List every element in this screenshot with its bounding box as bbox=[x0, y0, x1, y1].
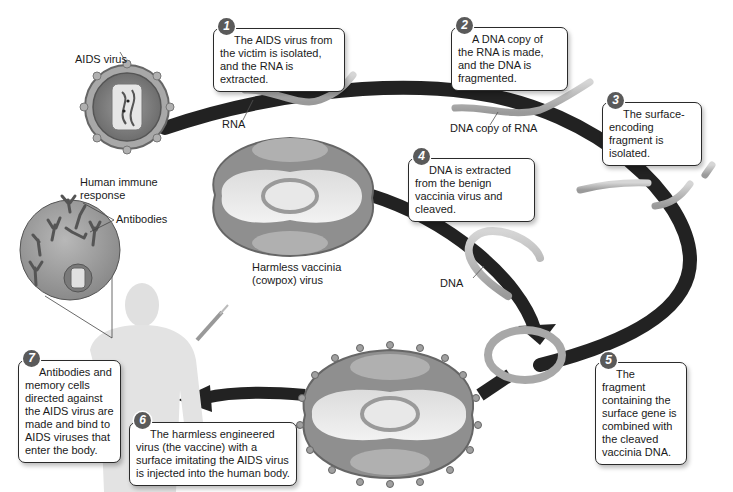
step-1-text: The AIDS virus from the victim is isolat… bbox=[220, 34, 338, 86]
vaccinia-virus-illustration bbox=[213, 138, 373, 256]
step-3-text: The surface-encoding fragment is isolate… bbox=[609, 108, 695, 160]
step-3-callout: 3 The surface-encoding fragment is isola… bbox=[602, 102, 702, 166]
label-vaccinia-line1: Harmless vaccinia bbox=[252, 261, 341, 273]
aids-virus-illustration bbox=[80, 52, 174, 154]
step-7-text: Antibodies and memory cells directed aga… bbox=[25, 366, 114, 457]
label-dna: DNA bbox=[440, 277, 463, 290]
step-7-callout: 7 Antibodies and memory cells directed a… bbox=[18, 360, 121, 463]
label-vaccinia-line2: (cowpox) virus bbox=[252, 274, 323, 286]
step-4-callout: 4 DNA is extracted from the benign vacci… bbox=[408, 158, 535, 222]
label-rna: RNA bbox=[222, 118, 245, 131]
label-immune-line2: response bbox=[80, 189, 125, 201]
step-6-text: The harmless engineered virus (the vacci… bbox=[136, 428, 290, 480]
step-2-callout: 2 A DNA copy of the RNA is made, and the… bbox=[451, 27, 568, 91]
label-aids-virus: AIDS virus bbox=[75, 53, 127, 66]
step-5-badge: 5 bbox=[600, 352, 617, 369]
step-2-text: A DNA copy of the RNA is made, and the D… bbox=[458, 33, 561, 85]
step-5-callout: 5 The fragment containing the surface ge… bbox=[595, 362, 687, 465]
step-3-badge: 3 bbox=[607, 92, 624, 109]
step-6-callout: 6 The harmless engineered virus (the vac… bbox=[129, 422, 297, 486]
step-1-badge: 1 bbox=[218, 18, 235, 35]
step-4-text: DNA is extracted from the benign vaccini… bbox=[415, 164, 528, 216]
step-7-badge: 7 bbox=[23, 350, 40, 367]
step-1-callout: 1 The AIDS virus from the victim is isol… bbox=[213, 28, 345, 92]
step-2-badge: 2 bbox=[456, 17, 473, 34]
label-immune-response: Human immune response bbox=[80, 176, 158, 202]
label-immune-line1: Human immune bbox=[80, 176, 158, 188]
step-6-badge: 6 bbox=[134, 412, 151, 429]
label-dna-copy: DNA copy of RNA bbox=[450, 122, 537, 135]
step-5-text: The fragment containing the surface gene… bbox=[602, 368, 680, 459]
label-vaccinia: Harmless vaccinia (cowpox) virus bbox=[252, 261, 341, 287]
immune-response-magnifier bbox=[20, 196, 120, 338]
step-4-badge: 4 bbox=[413, 148, 430, 165]
engineered-virus-illustration bbox=[297, 342, 482, 488]
label-antibodies: Antibodies bbox=[116, 213, 167, 226]
